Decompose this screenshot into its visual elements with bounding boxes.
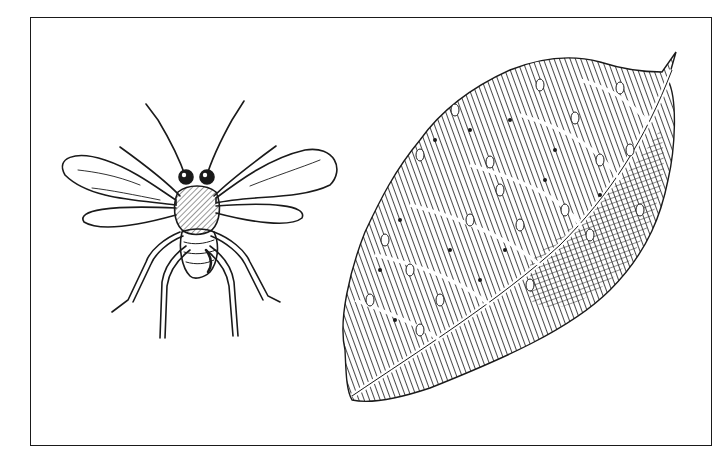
insect (62, 101, 336, 338)
leaf (343, 52, 676, 401)
illustration (0, 0, 727, 459)
